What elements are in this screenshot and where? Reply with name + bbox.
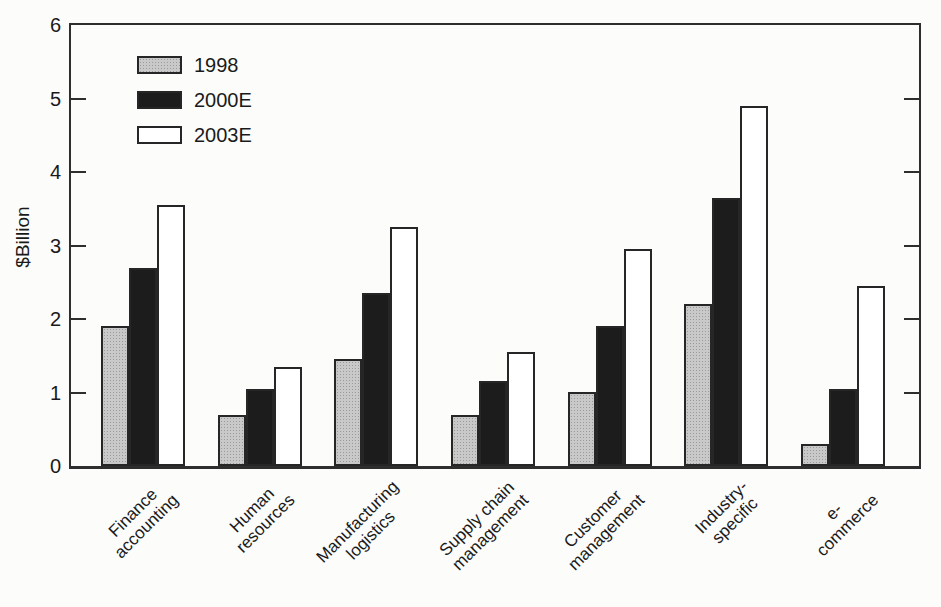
bar bbox=[479, 381, 507, 466]
bar bbox=[740, 106, 768, 466]
bar bbox=[801, 444, 829, 466]
y-tick-left bbox=[71, 171, 86, 173]
bar bbox=[334, 359, 362, 466]
x-category-label: Human resources bbox=[219, 477, 299, 557]
legend-item: 2000E bbox=[137, 91, 252, 109]
y-tick-right bbox=[904, 318, 919, 320]
bar bbox=[568, 392, 596, 466]
legend-label: 1998 bbox=[194, 56, 239, 74]
x-category-label: Customer management bbox=[552, 477, 649, 574]
y-tick-left bbox=[71, 392, 86, 394]
legend-swatch bbox=[137, 126, 182, 144]
bar bbox=[829, 389, 857, 466]
x-category-label: Supply chain management bbox=[435, 477, 532, 574]
bar bbox=[507, 352, 535, 466]
bar bbox=[246, 389, 274, 466]
y-tick-label: 6 bbox=[0, 13, 61, 37]
bar bbox=[274, 367, 302, 466]
bar bbox=[157, 205, 185, 466]
y-tick-right bbox=[904, 171, 919, 173]
bar bbox=[857, 286, 885, 466]
x-category-label: Manufacturing logistics bbox=[312, 477, 415, 580]
legend-swatch bbox=[137, 56, 182, 74]
x-category-label: Finance accounting bbox=[97, 477, 182, 562]
bar bbox=[712, 198, 740, 466]
y-tick-label: 0 bbox=[0, 454, 61, 478]
legend-label: 2000E bbox=[194, 91, 252, 109]
bar bbox=[129, 268, 157, 466]
y-tick-label: 1 bbox=[0, 381, 61, 405]
y-tick-left bbox=[71, 245, 86, 247]
x-category-label: e-commerce bbox=[799, 477, 882, 560]
bar-chart-figure: $Billion 19982000E2003E 0123456Finance a… bbox=[0, 0, 941, 607]
y-tick-label: 3 bbox=[0, 234, 61, 258]
y-tick-right bbox=[904, 98, 919, 100]
legend-swatch bbox=[137, 91, 182, 109]
bar bbox=[624, 249, 652, 466]
bar bbox=[101, 326, 129, 466]
y-tick-label: 4 bbox=[0, 160, 61, 184]
y-tick-right bbox=[904, 392, 919, 394]
legend: 19982000E2003E bbox=[137, 56, 252, 161]
bar bbox=[451, 415, 479, 466]
legend-item: 2003E bbox=[137, 126, 252, 144]
y-tick-label: 2 bbox=[0, 307, 61, 331]
bar bbox=[596, 326, 624, 466]
legend-item: 1998 bbox=[137, 56, 252, 74]
legend-label: 2003E bbox=[194, 126, 252, 144]
bar bbox=[684, 304, 712, 466]
bar bbox=[218, 415, 246, 466]
x-category-label: Industry-specific bbox=[692, 477, 766, 551]
bar bbox=[362, 293, 390, 466]
bar bbox=[390, 227, 418, 466]
y-tick-left bbox=[71, 318, 86, 320]
y-tick-label: 5 bbox=[0, 87, 61, 111]
y-tick-right bbox=[904, 245, 919, 247]
y-tick-left bbox=[71, 98, 86, 100]
